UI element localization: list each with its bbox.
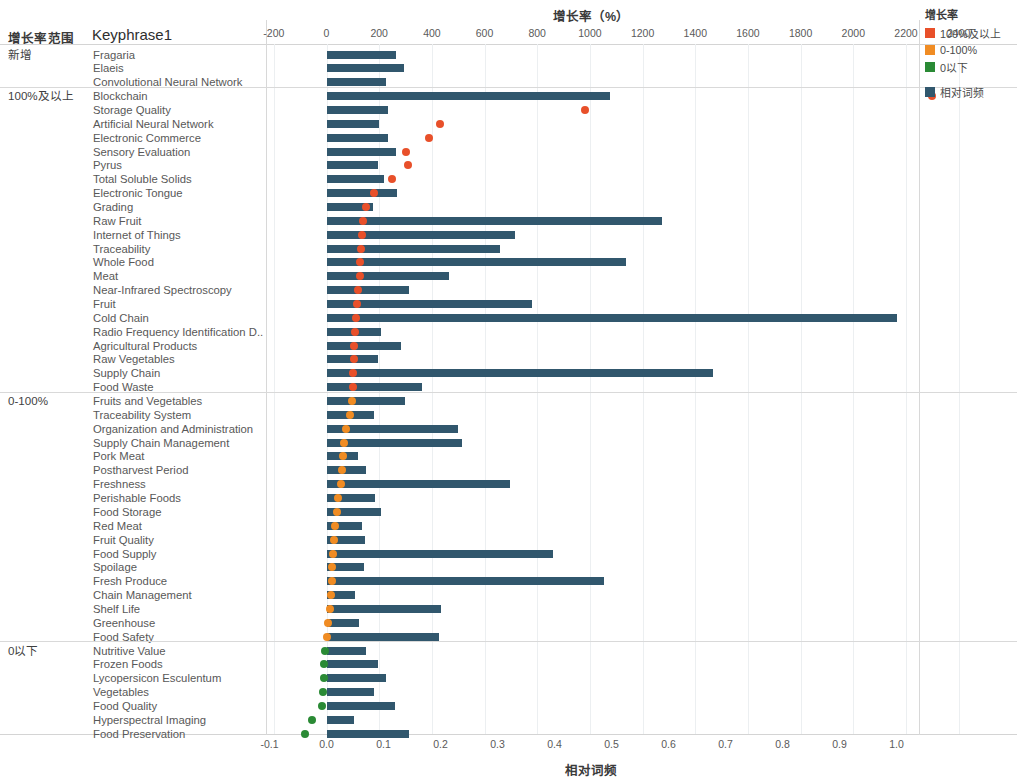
frequency-bar[interactable] <box>327 245 501 253</box>
frequency-bar[interactable] <box>327 64 404 72</box>
keyphrase-label[interactable]: Whole Food <box>93 256 154 268</box>
frequency-bar[interactable] <box>327 577 605 585</box>
keyphrase-label[interactable]: Total Soluble Solids <box>93 173 192 185</box>
frequency-bar[interactable] <box>327 480 511 488</box>
keyphrase-label[interactable]: Cold Chain <box>93 312 149 324</box>
growth-rate-dot[interactable] <box>388 175 396 183</box>
frequency-bar[interactable] <box>327 342 401 350</box>
growth-rate-dot[interactable] <box>331 522 339 530</box>
keyphrase-label[interactable]: Greenhouse <box>93 617 155 629</box>
frequency-bar[interactable] <box>327 383 423 391</box>
keyphrase-label[interactable]: Raw Fruit <box>93 215 141 227</box>
keyphrase-label[interactable]: Freshness <box>93 478 146 490</box>
growth-rate-dot[interactable] <box>342 425 350 433</box>
growth-rate-dot[interactable] <box>436 120 444 128</box>
keyphrase-label[interactable]: Grading <box>93 201 133 213</box>
growth-rate-dot[interactable] <box>404 161 412 169</box>
keyphrase-label[interactable]: Vegetables <box>93 686 149 698</box>
growth-rate-dot[interactable] <box>356 272 364 280</box>
growth-rate-dot[interactable] <box>352 314 360 322</box>
frequency-bar[interactable] <box>327 106 388 114</box>
frequency-bar[interactable] <box>327 258 626 266</box>
keyphrase-label[interactable]: Artificial Neural Network <box>93 118 214 130</box>
frequency-bar[interactable] <box>327 314 897 322</box>
growth-rate-dot[interactable] <box>425 134 433 142</box>
frequency-bar[interactable] <box>327 175 384 183</box>
keyphrase-label[interactable]: Pyrus <box>93 159 122 171</box>
frequency-bar[interactable] <box>327 605 441 613</box>
growth-rate-dot[interactable] <box>340 439 348 447</box>
growth-rate-dot[interactable] <box>323 633 331 641</box>
growth-rate-dot[interactable] <box>581 106 589 114</box>
frequency-bar[interactable] <box>327 688 374 696</box>
keyphrase-label[interactable]: Agricultural Products <box>93 340 197 352</box>
keyphrase-label[interactable]: Food Preservation <box>93 728 185 740</box>
keyphrase-label[interactable]: Food Supply <box>93 548 156 560</box>
growth-rate-dot[interactable] <box>326 605 334 613</box>
frequency-bar[interactable] <box>327 633 440 641</box>
frequency-bar[interactable] <box>327 134 389 142</box>
keyphrase-label[interactable]: Nutritive Value <box>93 645 166 657</box>
legend-item[interactable]: 100%及以上 <box>925 25 1017 41</box>
growth-rate-dot[interactable] <box>402 148 410 156</box>
keyphrase-label[interactable]: Fruit <box>93 298 116 310</box>
keyphrase-label[interactable]: Electronic Commerce <box>93 132 201 144</box>
growth-rate-dot[interactable] <box>351 328 359 336</box>
keyphrase-label[interactable]: Perishable Foods <box>93 492 181 504</box>
growth-rate-dot[interactable] <box>348 397 356 405</box>
keyphrase-label[interactable]: Postharvest Period <box>93 464 188 476</box>
growth-rate-dot[interactable] <box>308 716 316 724</box>
growth-rate-dot[interactable] <box>321 647 329 655</box>
keyphrase-label[interactable]: Hyperspectral Imaging <box>93 714 206 726</box>
frequency-bar[interactable] <box>327 92 610 100</box>
growth-rate-dot[interactable] <box>358 231 366 239</box>
keyphrase-label[interactable]: Spoilage <box>93 561 137 573</box>
keyphrase-label[interactable]: Traceability System <box>93 409 191 421</box>
keyphrase-label[interactable]: Fruits and Vegetables <box>93 395 202 407</box>
frequency-bar[interactable] <box>327 272 450 280</box>
keyphrase-label[interactable]: Near-Infrared Spectroscopy <box>93 284 232 296</box>
growth-rate-dot[interactable] <box>337 480 345 488</box>
frequency-bar[interactable] <box>327 148 397 156</box>
frequency-bar[interactable] <box>327 120 379 128</box>
frequency-bar[interactable] <box>327 78 386 86</box>
growth-rate-dot[interactable] <box>333 508 341 516</box>
frequency-bar[interactable] <box>327 647 367 655</box>
growth-rate-dot[interactable] <box>362 203 370 211</box>
growth-rate-dot[interactable] <box>357 245 365 253</box>
frequency-bar[interactable] <box>327 369 714 377</box>
frequency-bar[interactable] <box>327 550 554 558</box>
growth-rate-dot[interactable] <box>301 730 309 738</box>
frequency-bar[interactable] <box>327 286 410 294</box>
frequency-bar[interactable] <box>327 730 410 738</box>
keyphrase-label[interactable]: Fruit Quality <box>93 534 154 546</box>
legend-item[interactable]: 0-100% <box>925 44 1017 56</box>
growth-rate-dot[interactable] <box>324 619 332 627</box>
keyphrase-label[interactable]: Chain Management <box>93 589 192 601</box>
keyphrase-label[interactable]: Electronic Tongue <box>93 187 183 199</box>
keyphrase-label[interactable]: Fragaria <box>93 49 135 61</box>
frequency-bar[interactable] <box>327 660 378 668</box>
growth-rate-dot[interactable] <box>329 550 337 558</box>
keyphrase-label[interactable]: Shelf Life <box>93 603 140 615</box>
growth-rate-dot[interactable] <box>327 591 335 599</box>
keyphrase-label[interactable]: Lycopersicon Esculentum <box>93 672 221 684</box>
legend-item[interactable]: 0以下 <box>925 59 1017 75</box>
frequency-bar[interactable] <box>327 674 387 682</box>
frequency-bar[interactable] <box>327 716 354 724</box>
keyphrase-label[interactable]: Raw Vegetables <box>93 353 175 365</box>
keyphrase-label[interactable]: Sensory Evaluation <box>93 146 190 158</box>
growth-rate-dot[interactable] <box>350 342 358 350</box>
keyphrase-label[interactable]: Storage Quality <box>93 104 171 116</box>
frequency-bar[interactable] <box>327 189 397 197</box>
keyphrase-label[interactable]: Organization and Administration <box>93 423 253 435</box>
keyphrase-label[interactable]: Meat <box>93 270 118 282</box>
growth-rate-dot[interactable] <box>338 466 346 474</box>
growth-rate-dot[interactable] <box>330 536 338 544</box>
keyphrase-label[interactable]: Food Quality <box>93 700 157 712</box>
keyphrase-label[interactable]: Frozen Foods <box>93 658 163 670</box>
keyphrase-label[interactable]: Food Storage <box>93 506 161 518</box>
keyphrase-label[interactable]: Supply Chain Management <box>93 437 229 449</box>
frequency-bar[interactable] <box>327 466 367 474</box>
keyphrase-label[interactable]: Blockchain <box>93 90 148 102</box>
